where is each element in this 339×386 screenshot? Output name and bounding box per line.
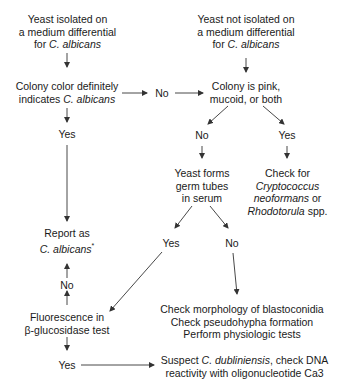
- node-yeast-isolated: Yeast isolated on a medium differential …: [10, 13, 125, 51]
- node-check-cryptococcus: Check for Cryptococcus neoformans or Rho…: [240, 167, 335, 217]
- node-suspect-dubliniensis: Suspect C. dubliniensis, check DNA react…: [152, 354, 337, 379]
- arrow-pink-to-yes: [263, 106, 284, 124]
- label-germ-yes: Yes: [158, 237, 184, 249]
- node-yeast-not-isolated: Yeast not isolated on a medium different…: [186, 13, 306, 51]
- node-fluorescence: Fluorescence in β-glucosidase test: [12, 311, 122, 336]
- node-germ-tubes: Yeast forms germ tubes in serum: [167, 167, 237, 205]
- label-fluorescence-yes: Yes: [53, 359, 81, 371]
- node-report-albicans: Report as C. albicans*: [22, 227, 112, 255]
- label-fluorescence-no: No: [55, 279, 79, 291]
- label-color-no: No: [151, 87, 173, 99]
- label-pink-no: No: [190, 129, 214, 141]
- arrow-germno-to-morphology: [233, 253, 237, 294]
- arrow-germ-to-no: [210, 206, 228, 228]
- label-pink-yes: Yes: [274, 129, 300, 141]
- arrow-germ-to-yes: [175, 206, 192, 228]
- arrow-pink-to-no: [208, 106, 228, 124]
- node-colony-pink: Colony is pink, mucoid, or both: [196, 80, 296, 105]
- node-colony-color: Colony color definitely indicates C. alb…: [7, 80, 127, 105]
- label-color-yes: Yes: [55, 128, 79, 140]
- node-check-morphology: Check morphology of blastoconidia Check …: [152, 303, 332, 341]
- label-germ-no: No: [220, 237, 244, 249]
